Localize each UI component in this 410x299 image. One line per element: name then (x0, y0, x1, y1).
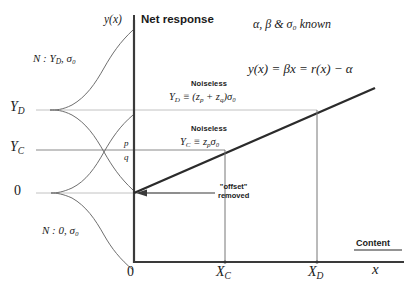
region-label-q: q (124, 153, 129, 162)
content-axis-label: Content (356, 239, 390, 248)
x-tick-xd-sub: D (317, 271, 324, 281)
y-tick-yc-sub: C (18, 146, 24, 156)
x-tick-label-xc: XC (216, 265, 231, 281)
content-axis-variable: x (372, 262, 379, 278)
offset-annotation: "offset" removed (218, 182, 249, 201)
header-label-net-response: Net response (141, 13, 214, 25)
noiseless-c-title: Noiseless (191, 125, 227, 133)
header-label-yx: y(x) (104, 13, 122, 25)
distribution-label-upper: N : YD, σ₀ (33, 53, 76, 66)
y-tick-label-yd: YD (10, 100, 25, 116)
distribution-upper-text: N : Y (33, 52, 56, 64)
x-tick-xd-text: X (308, 264, 317, 279)
response-line-equation: y(x) = βx = r(x) − α (248, 62, 353, 76)
region-label-p: p (124, 139, 129, 148)
net-response-figure: y(x) Net response α, β & σ₀ known y(x) =… (0, 0, 410, 299)
noiseless-d-eq-tail: ≡ (z (180, 91, 200, 102)
noiseless-c-equation: YC ≡ zpσ₀ (180, 136, 219, 150)
y-tick-label-zero: 0 (14, 184, 21, 199)
noiseless-d-eq-mid: + z (203, 91, 219, 102)
noiseless-d-equation: YD ≡ (zp + zq)σ₀ (169, 91, 236, 105)
distribution-upper-tail: , σ₀ (61, 52, 76, 64)
noiseless-d-title: Noiseless (191, 80, 227, 88)
noiseless-d-eq-end: )σ₀ (223, 91, 235, 102)
noiseless-c-eq-end: σ₀ (211, 136, 220, 147)
origin-label: 0 (127, 265, 134, 280)
y-tick-yd-text: Y (10, 99, 18, 114)
y-tick-label-yc: YC (10, 140, 24, 156)
distribution-label-lower: N : 0, σ₀ (42, 225, 79, 237)
offset-annotation-line2: removed (218, 191, 249, 200)
x-tick-xc-text: X (216, 264, 225, 279)
y-tick-yc-text: Y (10, 139, 18, 154)
y-tick-yd-sub: D (18, 106, 25, 116)
noiseless-c-eq-tail: ≡ z (191, 136, 207, 147)
x-tick-xc-sub: C (225, 271, 231, 281)
offset-annotation-line1: "offset" (218, 182, 249, 191)
x-tick-label-xd: XD (308, 265, 323, 281)
known-parameters-note: α, β & σ₀ known (253, 18, 331, 31)
